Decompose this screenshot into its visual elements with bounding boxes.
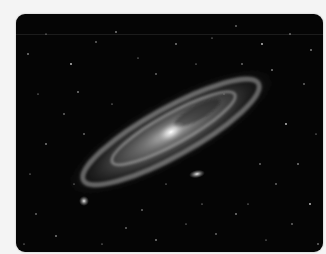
satellite-galaxy-m32	[188, 169, 205, 180]
galaxy-illustration	[16, 14, 323, 252]
galaxy-photo: Grayscale photograph of a large spiral g…	[16, 14, 323, 252]
satellite-galaxy-m110	[79, 196, 89, 206]
galaxy-disk	[52, 47, 289, 217]
scan-line	[16, 34, 323, 35]
